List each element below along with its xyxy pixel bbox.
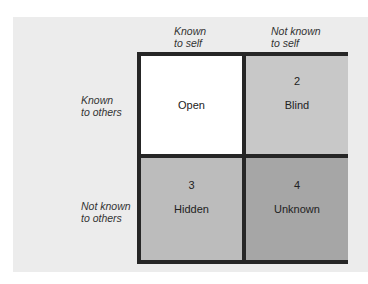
row-header-not-known-to-others: Not known to others bbox=[81, 200, 131, 224]
column-header-not-known-to-self: Not known to self bbox=[271, 25, 321, 49]
column-header-line: to self bbox=[271, 37, 321, 49]
cell-label: Unknown bbox=[246, 203, 348, 215]
row-header-line: Known bbox=[81, 94, 122, 106]
column-header-line: Not known bbox=[271, 25, 321, 37]
cell-label: Open bbox=[141, 99, 242, 111]
cell-label: Blind bbox=[246, 99, 348, 111]
row-header-line: to others bbox=[81, 106, 122, 118]
cell-number: 2 bbox=[246, 75, 348, 87]
johari-window-grid: Open 2 Blind 3 Hidden 4 Unknown bbox=[137, 52, 348, 264]
column-header-line: Known bbox=[174, 25, 206, 37]
cell-number: 4 bbox=[246, 179, 348, 191]
row-header-line: to others bbox=[81, 212, 131, 224]
cell-hidden: 3 Hidden bbox=[141, 158, 242, 260]
cell-number: 3 bbox=[141, 179, 242, 191]
cell-open: Open bbox=[141, 56, 242, 154]
row-header-line: Not known bbox=[81, 200, 131, 212]
cell-blind: 2 Blind bbox=[246, 56, 348, 154]
row-header-known-to-others: Known to others bbox=[81, 94, 122, 118]
column-header-known-to-self: Known to self bbox=[174, 25, 206, 49]
column-header-line: to self bbox=[174, 37, 206, 49]
cell-label: Hidden bbox=[141, 203, 242, 215]
cell-unknown: 4 Unknown bbox=[246, 158, 348, 260]
